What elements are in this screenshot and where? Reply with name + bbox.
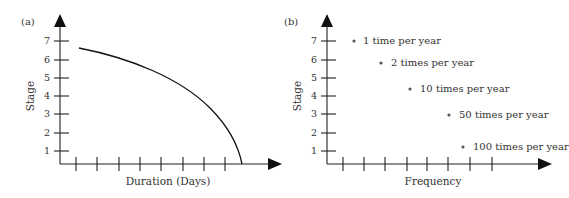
panel-b-points: 1 time per year 2 times per year 10 time… xyxy=(352,35,569,152)
panel-b-label: (b) xyxy=(284,16,298,27)
y-tick-label: 7 xyxy=(44,35,50,46)
point-marker-icon xyxy=(379,61,382,64)
panel-b-y-ticks xyxy=(321,41,336,151)
point-marker-icon xyxy=(461,145,464,148)
panel-a-y-axis-title: Stage xyxy=(24,81,36,112)
y-tick-label: 5 xyxy=(44,72,50,83)
panel-a-y-ticks xyxy=(54,41,69,151)
y-tick-label: 2 xyxy=(44,127,50,138)
data-point: 100 times per year xyxy=(461,141,569,152)
panel-a-y-arrow-icon xyxy=(54,14,66,27)
panel-b-y-axis-title: Stage xyxy=(291,81,303,112)
y-tick-label: 1 xyxy=(311,145,317,156)
panel-b-y-tick-labels: 1 2 3 4 5 6 7 xyxy=(311,35,317,156)
y-tick-label: 3 xyxy=(311,108,317,119)
point-label: 50 times per year xyxy=(459,109,549,120)
y-tick-label: 4 xyxy=(311,90,317,101)
panel-a: (a) 1 2 3 4 5 6 7 xyxy=(21,14,282,187)
point-label: 1 time per year xyxy=(363,35,441,46)
point-label: 10 times per year xyxy=(420,83,510,94)
point-marker-icon xyxy=(447,113,450,116)
point-marker-icon xyxy=(352,39,355,42)
point-marker-icon xyxy=(408,87,411,90)
panel-b: (b) 1 2 3 4 5 6 7 xyxy=(284,14,569,187)
data-point: 2 times per year xyxy=(379,57,474,68)
point-label: 100 times per year xyxy=(473,141,569,152)
figure: (a) 1 2 3 4 5 6 7 xyxy=(0,0,569,198)
panel-a-y-tick-labels: 1 2 3 4 5 6 7 xyxy=(44,35,50,156)
panel-b-y-arrow-icon xyxy=(321,14,333,27)
point-label: 2 times per year xyxy=(391,57,474,68)
y-tick-label: 4 xyxy=(44,90,50,101)
y-tick-label: 7 xyxy=(311,35,317,46)
panel-a-x-arrow-icon xyxy=(268,158,282,170)
panel-a-curve xyxy=(79,48,242,164)
y-tick-label: 6 xyxy=(311,54,317,65)
y-tick-label: 3 xyxy=(44,108,50,119)
data-point: 1 time per year xyxy=(352,35,441,46)
y-tick-label: 2 xyxy=(311,127,317,138)
data-point: 10 times per year xyxy=(408,83,509,94)
y-tick-label: 5 xyxy=(311,72,317,83)
data-point: 50 times per year xyxy=(447,109,548,120)
y-tick-label: 1 xyxy=(44,145,50,156)
panel-a-x-axis-title: Duration (Days) xyxy=(126,175,211,187)
panel-b-x-axis-title: Frequency xyxy=(405,175,462,187)
panel-b-x-arrow-icon xyxy=(538,158,552,170)
panel-a-label: (a) xyxy=(21,16,35,27)
y-tick-label: 6 xyxy=(44,54,50,65)
